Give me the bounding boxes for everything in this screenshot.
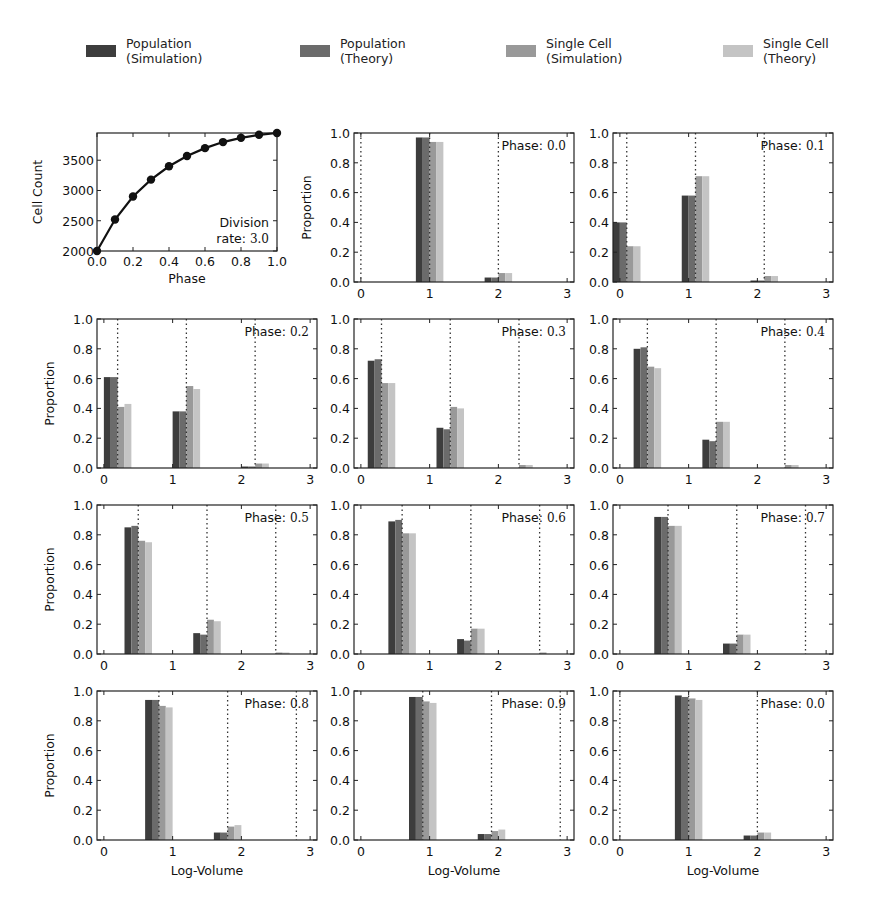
y-tick-label: 0.6 [589, 558, 609, 573]
y-tick-label: 0.0 [330, 647, 350, 662]
plot-background [613, 505, 833, 654]
data-marker [237, 134, 245, 142]
y-tick-label: 0.6 [73, 744, 93, 759]
bar [771, 276, 778, 282]
bar [634, 349, 641, 468]
x-tick-label: 3 [822, 286, 830, 301]
bar [437, 428, 444, 468]
bar [675, 526, 682, 654]
bar [682, 697, 689, 840]
y-tick-label: 1.0 [330, 312, 350, 327]
x-tick-label: 2 [494, 844, 502, 859]
bar [111, 377, 118, 468]
y-tick-label: 0.0 [330, 275, 350, 290]
bar [443, 429, 450, 468]
bar [689, 698, 696, 840]
y-tick-label: 0.6 [330, 186, 350, 201]
phase-annotation: Phase: 0.6 [501, 510, 566, 525]
x-tick-label: 3 [563, 658, 571, 673]
bar [166, 707, 173, 840]
y-tick-label: 0.2 [330, 617, 350, 632]
bar [498, 830, 505, 840]
bar [457, 639, 464, 654]
plot-background [613, 691, 833, 840]
y-tick-label: 1.0 [330, 126, 350, 141]
x-tick-label: 3 [822, 658, 830, 673]
x-tick-label: 0 [100, 472, 108, 487]
bar [125, 404, 132, 468]
x-tick-label: 1 [426, 844, 434, 859]
x-tick-label: 0.2 [123, 254, 143, 269]
bar [471, 629, 478, 654]
data-marker [93, 247, 101, 255]
bar [118, 407, 125, 468]
data-marker [201, 144, 209, 152]
phase-annotation: Phase: 0.9 [501, 696, 566, 711]
phase-panel-0-0: 01230.00.20.40.60.81.0Phase: 0.0Proporti… [299, 126, 574, 301]
bar [661, 517, 668, 654]
bar [388, 521, 395, 654]
bar [485, 834, 492, 840]
data-marker [255, 131, 263, 139]
y-tick-label: 0.0 [589, 647, 609, 662]
y-tick-label: 0.6 [330, 744, 350, 759]
data-marker [219, 138, 227, 146]
bar [702, 440, 709, 468]
bar [505, 273, 512, 282]
y-tick-label: 0.4 [330, 587, 350, 602]
y-tick-label: 0.2 [73, 803, 93, 818]
y-tick-label: 0.4 [73, 587, 93, 602]
bar [654, 368, 661, 468]
bar [193, 389, 200, 468]
data-marker [129, 192, 137, 200]
x-tick-label: 1 [426, 658, 434, 673]
y-axis-label: Cell Count [30, 160, 45, 225]
x-tick-label: 0.8 [231, 254, 251, 269]
plot-background [613, 133, 833, 282]
x-tick-label: 1 [685, 472, 693, 487]
data-marker [147, 175, 155, 183]
phase-panel-0-3: 01230.00.20.40.60.81.0Phase: 0.3 [330, 312, 574, 487]
bar [654, 517, 661, 654]
y-axis-label: Proportion [42, 361, 57, 426]
bar [180, 411, 187, 468]
bar [186, 386, 193, 468]
bar [228, 827, 235, 840]
bar [409, 533, 416, 654]
x-tick-label: 2 [753, 286, 761, 301]
phase-annotation: Phase: 0.7 [760, 510, 825, 525]
bar [634, 246, 641, 282]
y-tick-label: 0.8 [330, 156, 350, 171]
x-tick-label: 2 [753, 658, 761, 673]
y-axis-label: Proportion [42, 733, 57, 798]
x-tick-label: 1 [685, 286, 693, 301]
y-tick-label: 0.6 [330, 558, 350, 573]
bar [437, 142, 444, 282]
phase-annotation: Phase: 0.4 [760, 324, 825, 339]
bar [221, 833, 228, 840]
bar [193, 633, 200, 654]
y-tick-label: 1.0 [589, 126, 609, 141]
bar [620, 222, 627, 282]
x-tick-label: 2 [753, 472, 761, 487]
bar [668, 526, 675, 654]
y-tick-label: 0.8 [589, 342, 609, 357]
y-tick-label: 0.4 [330, 401, 350, 416]
y-tick-label: 3000 [62, 183, 94, 198]
x-axis-label: Log-Volume [687, 863, 760, 878]
bar [375, 359, 382, 468]
y-tick-label: 1.0 [589, 498, 609, 513]
y-tick-label: 2000 [62, 244, 94, 259]
y-tick-label: 0.8 [73, 528, 93, 543]
x-tick-label: 3 [822, 472, 830, 487]
bar [152, 700, 159, 840]
y-tick-label: 0.4 [589, 215, 609, 230]
bar [200, 635, 207, 654]
x-tick-label: 3 [306, 472, 314, 487]
bar [498, 273, 505, 282]
y-tick-label: 0.4 [73, 773, 93, 788]
y-tick-label: 0.2 [330, 431, 350, 446]
y-tick-label: 0.8 [589, 714, 609, 729]
bar [388, 383, 395, 468]
bar [457, 408, 464, 468]
